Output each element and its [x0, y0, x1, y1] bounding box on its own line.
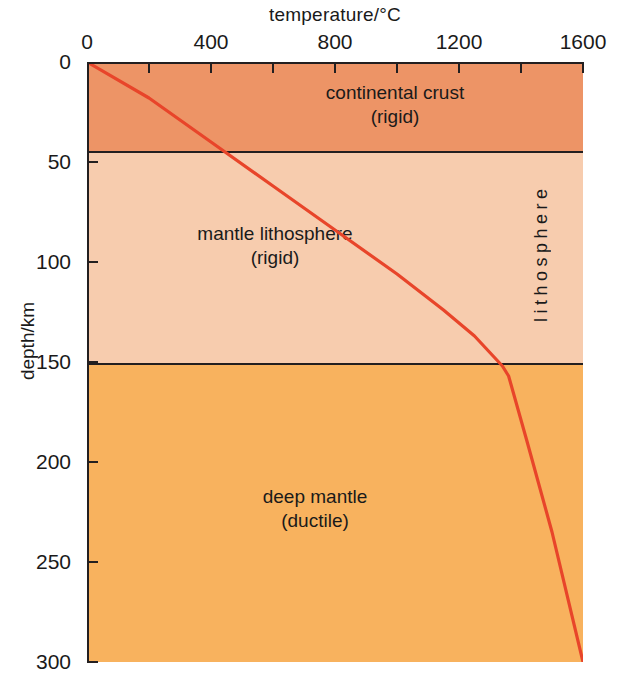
y-tick-label-0: 0 — [7, 50, 71, 74]
x-tick-1000 — [396, 62, 398, 73]
y-tick-label-200: 200 — [7, 450, 71, 474]
y-tick-label-50: 50 — [7, 150, 71, 174]
y-axis-title: depth/km — [17, 271, 39, 411]
x-axis-title: temperature/°C — [87, 4, 583, 26]
x-tick-1600 — [582, 62, 584, 73]
x-tick-label-800: 800 — [317, 30, 352, 54]
x-tick-label-0: 0 — [81, 30, 93, 54]
plot-area: continental crust(rigid)mantle lithosphe… — [87, 62, 583, 662]
x-tick-1400 — [520, 62, 522, 73]
y-tick-label-300: 300 — [7, 650, 71, 674]
geotherm-curve — [87, 62, 583, 662]
y-tick-label-250: 250 — [7, 550, 71, 574]
x-tick-400 — [210, 62, 212, 73]
y-tick-250 — [87, 561, 98, 563]
y-tick-label-150: 150 — [7, 350, 71, 374]
geotherm-path — [87, 62, 583, 662]
y-tick-50 — [87, 161, 98, 163]
x-tick-800 — [334, 62, 336, 73]
x-tick-label-1200: 1200 — [436, 30, 483, 54]
x-tick-label-1600: 1600 — [560, 30, 607, 54]
x-tick-600 — [272, 62, 274, 73]
y-tick-300 — [87, 661, 98, 663]
x-tick-200 — [148, 62, 150, 73]
y-tick-label-100: 100 — [7, 250, 71, 274]
geotherm-figure: temperature/°C 040080012001600 depth/km … — [0, 0, 617, 680]
x-tick-1200 — [458, 62, 460, 73]
x-tick-label-400: 400 — [193, 30, 228, 54]
y-tick-100 — [87, 261, 98, 263]
y-tick-200 — [87, 461, 98, 463]
y-tick-150 — [87, 361, 98, 363]
